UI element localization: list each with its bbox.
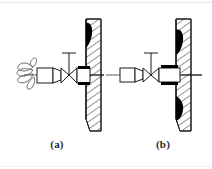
- nozzle-body: [37, 68, 61, 83]
- figure-root: (a): [0, 0, 212, 169]
- panel-b: (b): [106, 0, 212, 169]
- scan-artifact-bottom-line: [0, 166, 212, 167]
- barrel-section: [159, 68, 180, 82]
- nozzle-body: [120, 68, 143, 82]
- panel-a: (a): [0, 0, 106, 169]
- barrel-section: [77, 68, 90, 83]
- panel-b-caption: (b): [110, 138, 212, 150]
- spray-cloud: [17, 58, 37, 89]
- panel-a-caption: (a): [4, 138, 110, 150]
- panel-a-drawing: [0, 0, 106, 140]
- panel-b-drawing: [106, 0, 212, 140]
